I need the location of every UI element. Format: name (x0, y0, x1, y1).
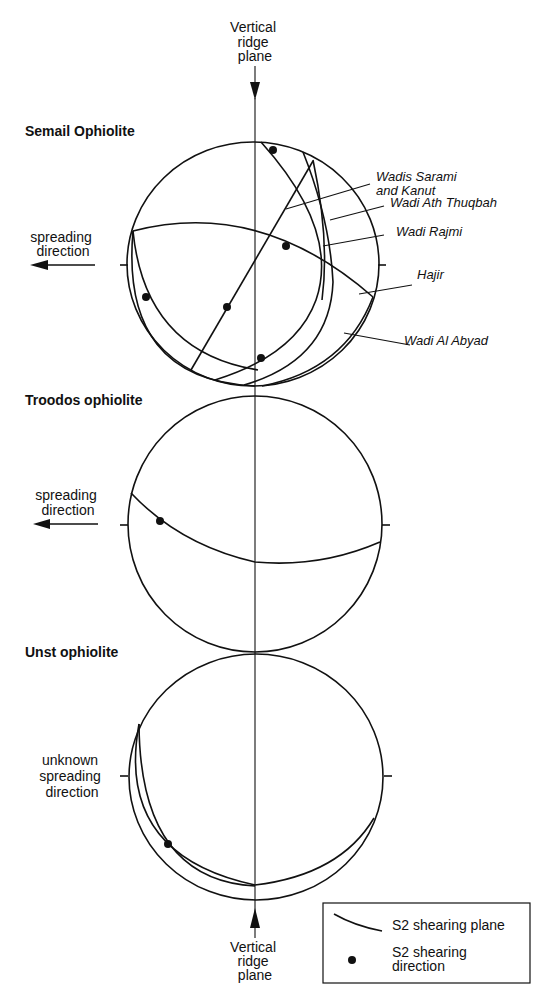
stereonet-unst (120, 654, 392, 900)
curve-wadi-al-abyad (262, 297, 373, 386)
curve-wadi-rajmi (215, 142, 322, 380)
panel-title-troodos: Troodos ophiolite (25, 392, 143, 408)
primitive-circle (129, 654, 383, 900)
panel-title-unst: Unst ophiolite (25, 644, 119, 660)
curve-left-great-circle (133, 231, 258, 370)
troodos-direction-label: spreading direction (35, 487, 100, 518)
bottom-ridge-label: Vertical ridge plane (230, 939, 280, 983)
legend-plane-icon (334, 914, 382, 931)
label-wadi-ath-thuqbah: Wadi Ath Thuqbah (390, 195, 497, 210)
panel-title-semail: Semail Ophiolite (25, 123, 135, 139)
curve-wadi-ath-thuqbah (244, 152, 333, 385)
label-wadi-al-abyad: Wadi Al Abyad (404, 333, 489, 348)
top-ridge-label: Vertical ridge plane (230, 19, 280, 64)
legend-direction-label: S2 shearing direction (392, 944, 471, 974)
label-hajir: Hajir (417, 267, 444, 282)
label-wadis-sarami: Wadis Sarami and Kanut (376, 169, 460, 198)
curve-wadis-sarami (191, 161, 313, 370)
curve-hajir (133, 223, 373, 297)
semail-direction-label: spreading direction (30, 229, 95, 259)
unst-direction-label: unknown spreading direction (39, 752, 104, 800)
stereonet-semail (120, 142, 412, 386)
label-wadi-rajmi: Wadi Rajmi (396, 224, 463, 239)
legend-plane-label: S2 shearing plane (392, 917, 505, 933)
legend-direction-icon (348, 956, 356, 964)
up-arrow-icon (250, 908, 260, 928)
stereonet-figure: Vertical ridge plane Semail Ophiolite (0, 0, 548, 1004)
